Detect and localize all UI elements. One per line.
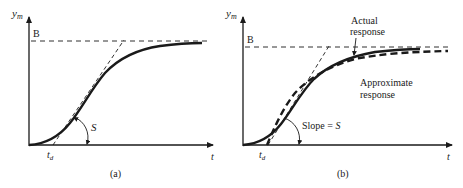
caption-a: (a) [110,168,121,180]
slope-label: S [91,121,97,133]
actual-response-pointer [354,38,356,55]
panel-b: ym B Actual response Approximate respons… [225,7,452,180]
delay-label: td [259,149,266,162]
y-axis-label: ym [11,7,23,21]
panel-a: ym B S td t (a) [11,7,214,180]
level-b-label: B [33,28,40,39]
approximate-response-curve [267,51,448,145]
approximate-response-label-line2: response [360,89,396,100]
actual-response-label-line1: Actual [351,15,378,26]
slope-angle-arc [74,117,88,144]
process-reaction-curve-figure: ym B S td t (a) ym B Actual response App… [0,0,463,188]
caption-b: (b) [337,168,349,180]
slope-label: Slope = S [302,120,340,131]
slope-angle-arc [284,118,300,144]
level-b-label: B [247,34,254,45]
approximate-response-label-line1: Approximate [360,77,413,88]
response-curve [29,43,202,145]
x-axis-label: t [211,151,214,162]
actual-response-label-line2: response [350,26,386,37]
delay-label: td [47,149,54,162]
y-axis-label: ym [225,7,237,21]
x-axis-label: t [447,151,450,162]
